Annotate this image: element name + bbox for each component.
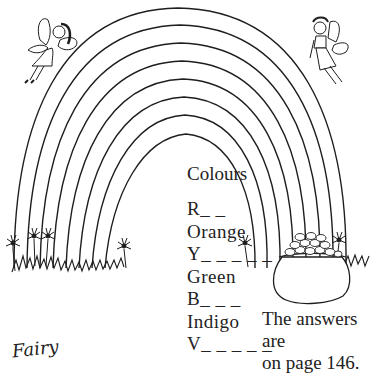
wing — [38, 19, 50, 45]
colour-item-green: Green — [187, 266, 272, 289]
pot-of-gold — [274, 233, 350, 304]
grass-left — [12, 256, 124, 272]
answers-note: The answers are on page 146. — [262, 308, 381, 374]
colour-item-violet: V_ _ _ _ _ — [187, 333, 272, 356]
colour-item-red: R_ _ — [187, 198, 272, 221]
fairy-left — [25, 19, 77, 83]
colour-item-orange: Orange — [187, 221, 272, 244]
wing — [328, 21, 339, 42]
colour-item-yellow: Y_ _ _ _ _ — [187, 243, 272, 266]
colour-puzzle: Colours R_ _ Orange Y_ _ _ _ _ Green B_ … — [187, 163, 272, 356]
colour-item-blue: B_ _ _ — [187, 288, 272, 311]
answers-note-line2: on page 146. — [262, 352, 381, 374]
answers-note-line1: The answers are — [262, 308, 381, 352]
fairy-right — [310, 18, 348, 85]
colour-item-indigo: Indigo — [187, 311, 272, 334]
puzzle-title: Colours — [187, 163, 272, 185]
